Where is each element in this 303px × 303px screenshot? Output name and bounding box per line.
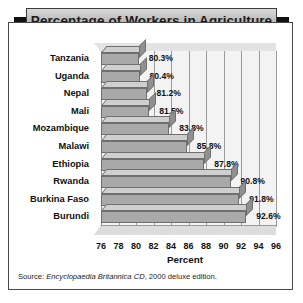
bar-top-face — [101, 187, 245, 194]
bar-side-face — [140, 57, 147, 76]
axis-tick-label: 90 — [218, 241, 228, 251]
bar-value-label: 92.6% — [256, 210, 280, 222]
bar-side-face — [139, 39, 146, 58]
bar-top-face — [101, 64, 145, 71]
chart-frame: TanzaniaUgandaNepalMaliMozambiqueMalawiE… — [8, 22, 293, 290]
axis-tick-label: 76 — [96, 241, 106, 251]
axis-tick-label: 80 — [131, 241, 141, 251]
category-label: Malawi — [16, 141, 89, 151]
plot-3d-box: 80.3%80.4%81.2%81.5%83.8%85.8%87.8%90.8%… — [94, 43, 276, 239]
category-axis-labels: TanzaniaUgandaNepalMaliMozambiqueMalawiE… — [18, 51, 91, 229]
category-label: Nepal — [16, 88, 89, 98]
plot-area: TanzaniaUgandaNepalMaliMozambiqueMalawiE… — [18, 43, 283, 248]
axis-tick-label: 88 — [201, 241, 211, 251]
axis-tick-label: 82 — [148, 241, 158, 251]
bar-side-face — [246, 197, 253, 216]
category-label: Uganda — [16, 71, 89, 81]
chart-page: Percentage of Workers in Agriculture Tan… — [0, 0, 303, 303]
category-label: Mali — [16, 106, 89, 116]
source-prefix: Source: — [18, 272, 46, 281]
bar-top-face — [101, 169, 236, 176]
bar-top-face — [101, 46, 144, 53]
category-label: Rwanda — [16, 176, 89, 186]
bar-top-face — [101, 134, 192, 141]
bar-front-face — [101, 211, 246, 223]
axis-tick-label: 84 — [166, 241, 176, 251]
axis-tick-label: 86 — [183, 241, 193, 251]
category-label: Mozambique — [16, 123, 89, 133]
bar-side-face — [149, 92, 156, 111]
axis-tick-label: 92 — [236, 241, 246, 251]
x-axis-title: Percent — [94, 254, 276, 265]
bar-top-face — [101, 99, 155, 106]
bar-top-face — [101, 116, 175, 123]
gridline — [276, 51, 277, 227]
category-label: Ethiopia — [16, 159, 89, 169]
bar: 92.6% — [101, 211, 246, 223]
axis-tick-label: 78 — [113, 241, 123, 251]
category-label: Tanzania — [16, 53, 89, 63]
axis-tick-label: 94 — [253, 241, 263, 251]
bar-value-label: 80.3% — [149, 52, 173, 64]
source-publication: Encyclopaedia Britannica CD — [46, 272, 144, 281]
bar-value-label: 81.2% — [157, 87, 181, 99]
bar-top-face — [101, 204, 252, 211]
source-suffix: , 2000 deluxe edition. — [145, 272, 217, 281]
value-axis-ticks: 7678808284868890929496 — [94, 241, 276, 255]
bar-top-face — [101, 81, 152, 88]
bar-side-face — [147, 74, 154, 93]
source-note: Source: Encyclopaedia Britannica CD, 200… — [18, 272, 217, 281]
category-label: Burundi — [16, 211, 89, 221]
bar-series: 80.3%80.4%81.2%81.5%83.8%85.8%87.8%90.8%… — [101, 51, 276, 227]
axis-tick-label: 96 — [271, 241, 281, 251]
category-label: Burkina Faso — [16, 194, 89, 204]
bar-top-face — [101, 152, 210, 159]
